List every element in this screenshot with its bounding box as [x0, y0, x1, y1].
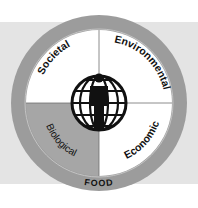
label-food: FOOD [84, 177, 114, 188]
food-system-diagram: Societal Environmental Economic Biologic… [0, 0, 198, 208]
